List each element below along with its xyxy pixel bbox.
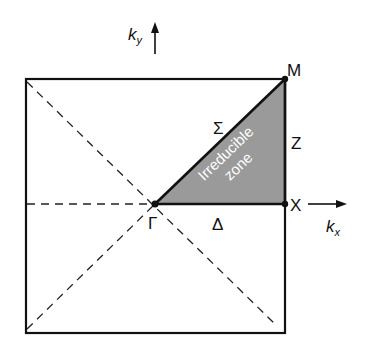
kx-axis-arrow xyxy=(308,200,347,208)
x-point xyxy=(282,201,288,207)
z-line-label: Z xyxy=(291,134,301,153)
ky-axis-arrow xyxy=(151,22,159,54)
kx-axis-label: kx xyxy=(326,217,341,238)
gamma-point xyxy=(152,201,159,208)
x-point-label: X xyxy=(290,196,301,215)
m-point-label: M xyxy=(287,61,301,80)
delta-line-label: Δ xyxy=(212,215,223,234)
gamma-point-label: Γ xyxy=(148,214,157,233)
dashed-symmetry-lines xyxy=(27,82,276,329)
sigma-line-label: Σ xyxy=(213,119,224,138)
brillouin-zone-diagram: ky kx M X Γ Δ Σ Z Irreducible zone xyxy=(0,0,365,351)
ky-axis-label: ky xyxy=(128,25,144,46)
